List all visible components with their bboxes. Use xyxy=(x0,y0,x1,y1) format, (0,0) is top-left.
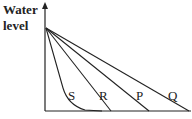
curve-label-r: R xyxy=(99,88,108,104)
y-axis-arrow-icon xyxy=(42,2,48,9)
curve-label-q: Q xyxy=(168,88,177,104)
curve-p xyxy=(46,28,149,111)
diagram-graph xyxy=(0,0,192,119)
curve-label-s: S xyxy=(68,88,75,104)
curve-label-p: P xyxy=(136,88,143,104)
